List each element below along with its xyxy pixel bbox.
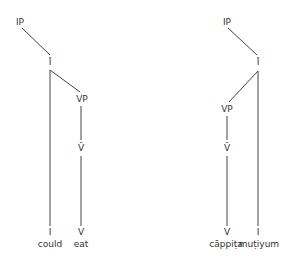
right-word-cappita: cāppiṭa — [209, 240, 242, 249]
edge-left-ibar-vp — [50, 70, 80, 92]
right-vbar-node: V̄ — [224, 144, 230, 153]
right-ip-node: IP — [223, 18, 231, 27]
tree-edges — [0, 0, 287, 262]
edge-right-ip-ibar — [228, 28, 257, 55]
left-word-eat: eat — [74, 240, 89, 249]
right-v-node: V — [224, 228, 230, 237]
left-word-could: could — [38, 240, 62, 249]
edge-left-ip-ibar — [22, 28, 50, 55]
right-ibar-node: Ī — [257, 58, 260, 67]
syntax-tree-diagram: IP Ī VP V̄ I V could eat IP Ī VP V̄ V I … — [0, 0, 287, 262]
left-v-node: V — [78, 228, 84, 237]
left-vbar-node: V̄ — [78, 144, 84, 153]
right-i-node: I — [257, 228, 260, 237]
left-ibar-node: Ī — [49, 58, 52, 67]
right-word-mutiyum: muṭiyum — [239, 240, 279, 249]
left-ip-node: IP — [16, 18, 24, 27]
left-vp-node: VP — [76, 95, 88, 104]
left-i-node: I — [49, 228, 52, 237]
right-vp-node: VP — [221, 105, 233, 114]
edge-right-ibar-vp — [229, 71, 258, 102]
